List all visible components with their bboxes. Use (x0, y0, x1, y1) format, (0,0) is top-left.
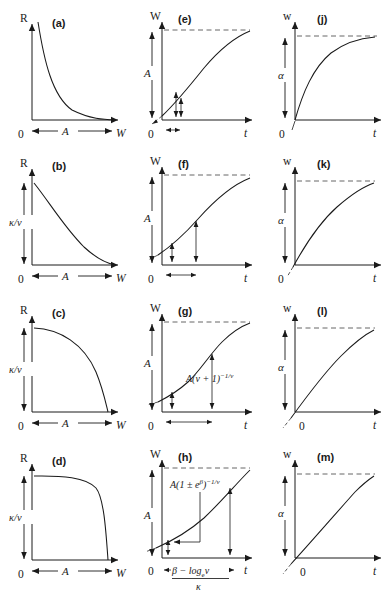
panel-d-origin: 0 (18, 568, 24, 580)
panel-c-origin: 0 (18, 420, 24, 432)
panel-c-ydim: κ/ν (9, 364, 22, 375)
panel-f-xlabel: t (244, 272, 248, 284)
panel-c-label: (c) (52, 307, 66, 319)
panel-h-ylabel: W (150, 448, 161, 460)
panel-m-ydim: α (278, 507, 284, 519)
panel-l-label: (l) (317, 305, 328, 317)
panel-j-origin: 0 (279, 128, 285, 140)
panel-h-formula-a: A(1 ± e (169, 479, 200, 491)
svg-text:A(ν + 1)−1/ν: A(ν + 1)−1/ν (185, 372, 234, 385)
panel-g-xlabel: t (244, 419, 248, 431)
panel-h-formula-sup2: −1/ν (206, 478, 220, 486)
panel-g: W (g) t 0 A A(ν + 1)−1/ν (130, 292, 261, 444)
panel-h-frac-den: κ (196, 581, 201, 592)
panel-e-origin: 0 (148, 128, 154, 140)
panel-d-xlabel: W (116, 567, 127, 579)
panel-b-xlabel: W (116, 272, 127, 284)
panel-j-ylabel: w (283, 10, 292, 22)
panel-m-label: (m) (317, 451, 334, 463)
panel-d-label: (d) (52, 455, 66, 467)
panel-a-origin: 0 (18, 128, 24, 140)
panel-f-ydim: A (143, 212, 151, 224)
panel-k-origin: 0 (278, 273, 284, 285)
panel-c-xdim: A (61, 417, 69, 429)
panel-f-label: (f) (178, 158, 189, 170)
panel-m-ylabel: w (283, 448, 292, 460)
panel-e: W (e) t 0 A (130, 0, 261, 150)
panel-e-xlabel: t (244, 127, 248, 139)
panel-l-ydim: α (278, 361, 284, 373)
panel-d: R (d) W 0 κ/ν A (0, 440, 130, 602)
panel-l: w (l) t 0 α (261, 292, 391, 444)
panel-k-xlabel: t (373, 272, 377, 284)
panel-h-frac-num: β − log (171, 565, 202, 576)
panel-m-origin: 0 (300, 566, 306, 578)
panel-a-xlabel: W (116, 127, 127, 139)
panel-b-xdim: A (61, 270, 69, 282)
panel-b-ylabel: R (20, 157, 28, 169)
panel-g-formula-base: A(ν + 1) (185, 373, 221, 385)
panel-m-xlabel: t (373, 565, 377, 577)
panel-a-ylabel: R (20, 12, 28, 24)
panel-h-label: (h) (178, 451, 192, 463)
panel-l-xlabel: t (373, 419, 377, 431)
panel-b-ydim: κ/ν (9, 217, 22, 228)
panel-c-ylabel: R (20, 304, 28, 316)
panel-d-ydim: κ/ν (9, 512, 22, 523)
panel-b-label: (b) (52, 160, 66, 172)
panel-f-origin: 0 (148, 273, 154, 285)
panel-d-ylabel: R (20, 452, 28, 464)
panel-h: W (h) t 0 A A(1 ± eβ)−1/ν β − logeν κ (130, 440, 261, 602)
panel-h-origin: 0 (148, 565, 154, 577)
panel-m: w (m) t 0 α (261, 440, 391, 602)
panel-a-xdim: A (61, 125, 69, 137)
panel-h-xlabel: t (244, 564, 248, 576)
panel-h-formula: A(1 ± eβ)−1/ν (169, 478, 220, 491)
panel-c-xlabel: W (116, 419, 127, 431)
panel-j-xlabel: t (373, 127, 377, 139)
panel-d-xdim: A (61, 565, 69, 577)
svg-text:A(1 ± eβ)−1/ν: A(1 ± eβ)−1/ν (169, 478, 220, 491)
panel-h-ydim: A (143, 509, 151, 521)
panel-f: W (f) t 0 A (130, 145, 261, 295)
panel-e-ylabel: W (150, 10, 161, 22)
panel-e-ydim: A (143, 67, 151, 79)
panel-e-label: (e) (178, 13, 192, 25)
panel-a-label: (a) (52, 17, 66, 29)
panel-g-ylabel: W (150, 302, 161, 314)
figure-grid: R (a) W 0 A W (e) t 0 A (0, 0, 391, 602)
panel-h-time-bracket: β − logeν κ (171, 562, 229, 592)
panel-k-label: (k) (317, 158, 331, 170)
panel-l-ylabel: w (283, 302, 292, 314)
panel-a: R (a) W 0 A (0, 0, 130, 150)
panel-g-formula: A(ν + 1)−1/ν (185, 372, 234, 385)
panel-b: R (b) W 0 κ/ν A (0, 145, 130, 295)
panel-g-label: (g) (178, 305, 192, 317)
panel-k-ylabel: w (283, 155, 292, 167)
panel-j-ydim: α (278, 69, 284, 81)
panel-g-ydim: A (143, 357, 151, 369)
panel-j: w (j) t 0 α (261, 0, 391, 150)
panel-b-origin: 0 (18, 273, 24, 285)
panel-g-origin: 0 (148, 420, 154, 432)
panel-k-ydim: α (278, 214, 284, 226)
svg-text:β − logeν: β − logeν (171, 565, 210, 579)
panel-k: w (k) t 0 α (261, 145, 391, 295)
panel-c: R (c) W 0 κ/ν A (0, 292, 130, 444)
panel-h-frac-num-tail: ν (205, 565, 210, 576)
panel-l-origin: 0 (299, 420, 305, 432)
panel-j-label: (j) (317, 13, 328, 25)
panel-g-formula-exp: −1/ν (220, 372, 234, 380)
panel-f-ylabel: W (150, 155, 161, 167)
